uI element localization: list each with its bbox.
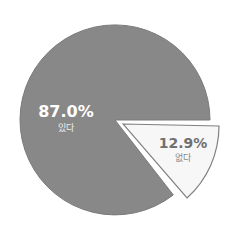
slice-yes-percent: 87.0% [38, 102, 94, 121]
pie-chart: 87.0% 있다 12.9% 없다 [0, 0, 234, 237]
slice-no-percent: 12.9% [159, 135, 208, 151]
slice-yes-label: 있다 [58, 122, 75, 133]
slice-no-label: 없다 [175, 153, 192, 163]
